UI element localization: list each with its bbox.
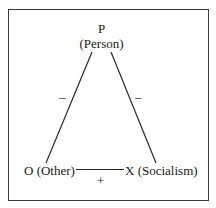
node-o-label: O (Other) — [24, 164, 75, 178]
edge-p-x-sign: – — [135, 90, 142, 104]
node-x-label: X (Socialism) — [125, 164, 198, 178]
edge-p-o — [46, 52, 92, 163]
edge-p-o-sign: – — [59, 90, 66, 104]
node-p-name: (Person) — [0, 37, 203, 51]
edge-p-x — [111, 52, 156, 163]
node-p-letter: P — [0, 22, 203, 36]
edge-o-x-sign: + — [97, 174, 104, 188]
